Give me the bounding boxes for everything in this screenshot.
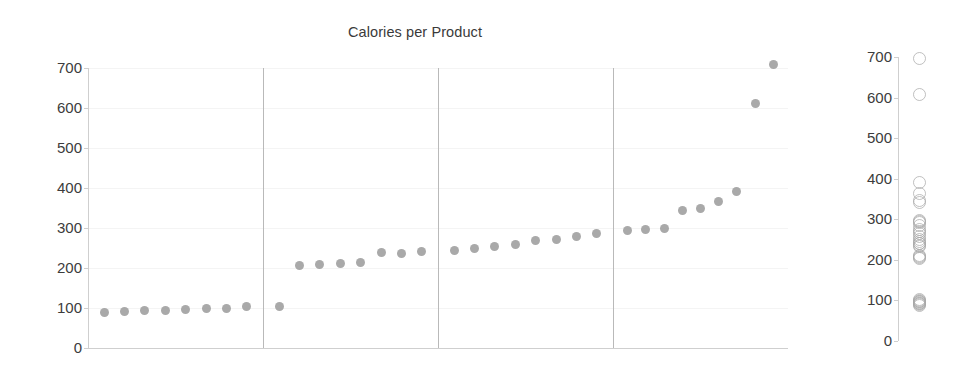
y-tick-label: 0 — [36, 340, 82, 355]
strip-y-tick-label: 200 — [846, 252, 892, 267]
panel-divider — [263, 68, 264, 348]
data-point — [100, 308, 109, 317]
main-scatter-panel: 0100200300400500600700 — [0, 0, 830, 373]
strip-y-axis-line — [898, 57, 899, 341]
y-tick-label: 200 — [36, 260, 82, 275]
y-tick-label: 700 — [36, 60, 82, 75]
data-point — [275, 302, 284, 311]
y-tick-label: 300 — [36, 220, 82, 235]
strip-data-point — [913, 52, 926, 65]
strip-y-tick-label: 0 — [846, 333, 892, 348]
y-tick-label: 600 — [36, 100, 82, 115]
data-point — [769, 60, 778, 69]
data-point — [511, 240, 520, 249]
data-point — [356, 258, 365, 267]
data-point — [732, 187, 741, 196]
data-point — [696, 204, 705, 213]
y-tick-label: 100 — [36, 300, 82, 315]
data-point — [470, 244, 479, 253]
data-point — [120, 307, 129, 316]
data-point — [181, 305, 190, 314]
data-point — [592, 229, 601, 238]
strip-data-point — [913, 88, 926, 101]
strip-plot-panel: 0100200300400500600700 — [840, 0, 973, 373]
data-point — [552, 235, 561, 244]
strip-y-tick-label: 600 — [846, 90, 892, 105]
strip-data-point — [913, 293, 926, 306]
data-point — [450, 246, 459, 255]
data-point — [202, 304, 211, 313]
data-point — [678, 206, 687, 215]
panel-divider — [438, 68, 439, 348]
data-point — [242, 302, 251, 311]
data-point — [295, 261, 304, 270]
data-point — [714, 197, 723, 206]
y-tick-label: 400 — [36, 180, 82, 195]
strip-y-axis-labels: 0100200300400500600700 — [840, 0, 892, 373]
strip-y-tick-label: 700 — [846, 49, 892, 64]
data-point — [531, 236, 540, 245]
strip-y-tick-mark — [894, 341, 898, 342]
data-point — [417, 247, 426, 256]
chart-figure: Calories per Product 0100200300400500600… — [0, 0, 973, 373]
data-point — [623, 226, 632, 235]
data-point — [336, 259, 345, 268]
data-point — [222, 304, 231, 313]
strip-data-point — [913, 176, 926, 189]
strip-y-tick-label: 100 — [846, 292, 892, 307]
strip-y-tick-label: 500 — [846, 130, 892, 145]
data-point — [641, 225, 650, 234]
data-point — [377, 248, 386, 257]
panel-divider — [613, 68, 614, 348]
strip-y-tick-label: 300 — [846, 211, 892, 226]
data-point — [572, 232, 581, 241]
y-axis-line — [88, 68, 89, 348]
data-point — [140, 306, 149, 315]
data-point — [161, 306, 170, 315]
strip-data-point — [913, 214, 926, 227]
data-point — [490, 242, 499, 251]
data-point — [660, 224, 669, 233]
main-y-axis-labels: 0100200300400500600700 — [30, 0, 82, 373]
data-point — [397, 249, 406, 258]
data-point — [751, 99, 760, 108]
strip-y-tick-label: 400 — [846, 171, 892, 186]
x-axis-line — [88, 348, 788, 349]
y-tick-label: 500 — [36, 140, 82, 155]
